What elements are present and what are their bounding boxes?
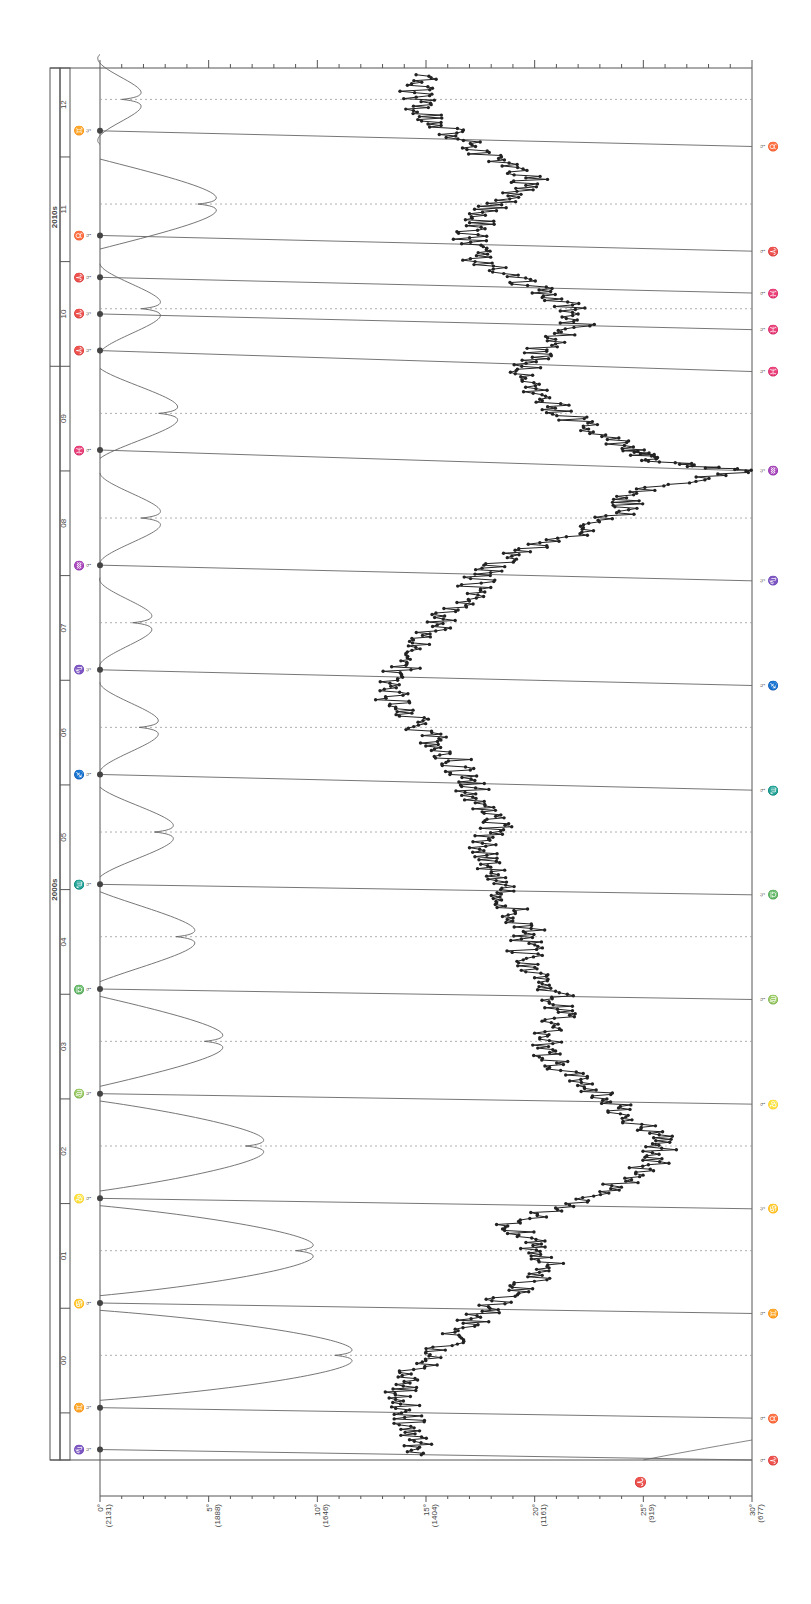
zodiac-sign-icon: ♐ xyxy=(768,680,779,691)
decade-label: 2010s xyxy=(50,205,59,228)
planet-glyph-icon: ♄ xyxy=(84,1300,94,1307)
zodiac-sign-icon: ♑ xyxy=(74,664,85,675)
planet-glyph-icon: ♄ xyxy=(758,248,768,255)
planet-glyph-icon: ♄ xyxy=(84,274,94,281)
year-label: 02 xyxy=(59,1146,68,1155)
planet-glyph-icon: ♄ xyxy=(758,1101,768,1108)
price-tick-label: (677) xyxy=(756,1504,765,1523)
zodiac-sign-icon: ♈ xyxy=(768,246,779,257)
planet-glyph-icon: ♄ xyxy=(84,771,94,778)
zodiac-sign-icon: ♉ xyxy=(74,230,85,241)
zodiac-sign-icon: ♓ xyxy=(768,324,779,335)
planet-glyph-icon: ♄ xyxy=(758,682,768,689)
zodiac-sign-icon: ♋ xyxy=(768,1203,779,1214)
planet-glyph-icon: ♄ xyxy=(84,881,94,888)
planet-glyph-icon: ♄ xyxy=(84,1446,94,1453)
price-tick-label: (1404) xyxy=(430,1504,439,1527)
astro-price-chart: 2000s2010s 00010203040506070809101112 0°… xyxy=(0,0,811,1604)
planet-markers-left: ♄♑♄♊♄♋♄♌♄♍♄♎♄♏♄♐♄♑♄♒♄♓♄♈♄♈♄♈♄♉♄♊ xyxy=(74,125,103,1455)
zodiac-sign-icon: ♏ xyxy=(74,879,85,890)
aries-icon: ♈ xyxy=(634,1476,647,1488)
zodiac-sign-icon: ♋ xyxy=(74,1298,85,1309)
planet-glyph-icon: ♄ xyxy=(84,1090,94,1097)
year-label: 01 xyxy=(59,1251,68,1260)
zodiac-sign-icon: ♓ xyxy=(768,366,779,377)
planet-glyph-icon: ♄ xyxy=(84,447,94,454)
price-tick-label: (1161) xyxy=(539,1504,548,1527)
zodiac-sign-icon: ♌ xyxy=(768,1099,779,1110)
planet-glyph-icon: ♄ xyxy=(758,290,768,297)
planet-glyph-icon: ♄ xyxy=(84,232,94,239)
zodiac-sign-icon: ♌ xyxy=(74,1193,85,1204)
planet-glyph-icon: ♄ xyxy=(758,368,768,375)
zodiac-sign-icon: ♒ xyxy=(768,465,779,476)
zodiac-sign-icon: ♈ xyxy=(74,345,85,356)
year-label: 07 xyxy=(59,623,68,632)
planet-glyph-icon: ♄ xyxy=(758,1415,768,1422)
year-label: 05 xyxy=(59,832,68,841)
year-label: 09 xyxy=(59,414,68,423)
year-label: 00 xyxy=(59,1356,68,1365)
year-label: 06 xyxy=(59,728,68,737)
year-label: 04 xyxy=(59,937,68,946)
planet-glyph-icon: ♄ xyxy=(84,562,94,569)
top-ruler xyxy=(100,60,752,68)
zodiac-sign-icon: ♍ xyxy=(74,1088,85,1099)
zodiac-sign-icon: ♒ xyxy=(74,560,85,571)
year-label: 11 xyxy=(59,205,68,214)
price-tick-label: (1646) xyxy=(321,1504,330,1527)
zodiac-sign-icon: ♓ xyxy=(768,288,779,299)
zodiac-sign-icon: ♈ xyxy=(768,1455,779,1466)
planet-glyph-icon: ♄ xyxy=(758,996,768,1003)
planet-glyph-icon: ♄ xyxy=(758,1457,768,1464)
planet-glyph-icon: ♄ xyxy=(84,666,94,673)
planet-glyph-icon: ♄ xyxy=(758,143,768,150)
planet-glyph-icon: ♄ xyxy=(758,468,768,475)
price-tick-label: (919) xyxy=(647,1504,656,1523)
planet-glyph-icon: ♄ xyxy=(758,891,768,898)
planet-glyph-icon: ♄ xyxy=(758,326,768,333)
zodiac-sign-icon: ♊ xyxy=(74,1402,85,1413)
planet-glyph-icon: ♄ xyxy=(84,311,94,318)
zodiac-sign-icon: ♓ xyxy=(74,445,85,456)
planet-glyph-icon: ♄ xyxy=(84,1404,94,1411)
planet-cycle-curves: ♈ xyxy=(98,54,752,1488)
zodiac-sign-icon: ♑ xyxy=(74,1444,85,1455)
planet-markers-right: ♄♈♄♉♄♊♄♋♄♌♄♍♄♎♄♏♄♐♄♑♄♒♄♓♄♓♄♓♄♈♄♉ xyxy=(758,141,779,1466)
planet-glyph-icon: ♄ xyxy=(84,1195,94,1202)
zodiac-sign-icon: ♊ xyxy=(768,1308,779,1319)
year-label: 03 xyxy=(59,1042,68,1051)
price-tick-label: (2131) xyxy=(104,1504,113,1527)
zodiac-sign-icon: ♈ xyxy=(74,308,85,319)
mid-year-guides xyxy=(100,99,752,1355)
planet-glyph-icon: ♄ xyxy=(84,347,94,354)
year-band: 00010203040506070809101112 xyxy=(59,100,70,1413)
zodiac-sign-icon: ♑ xyxy=(768,575,779,586)
planet-glyph-icon: ♄ xyxy=(758,1205,768,1212)
zodiac-sign-icon: ♈ xyxy=(74,272,85,283)
zodiac-sign-icon: ♏ xyxy=(768,785,779,796)
planet-glyph-icon: ♄ xyxy=(84,127,94,134)
zodiac-sign-icon: ♉ xyxy=(768,141,779,152)
zodiac-sign-icon: ♎ xyxy=(74,984,85,995)
zodiac-sign-icon: ♉ xyxy=(768,1413,779,1424)
year-label: 12 xyxy=(59,100,68,109)
zodiac-sign-icon: ♎ xyxy=(768,889,779,900)
price-series xyxy=(374,73,753,1456)
year-label: 08 xyxy=(59,518,68,527)
zodiac-sign-icon: ♍ xyxy=(768,994,779,1005)
planet-glyph-icon: ♄ xyxy=(758,577,768,584)
zodiac-sign-icon: ♐ xyxy=(74,769,85,780)
planet-glyph-icon: ♄ xyxy=(84,986,94,993)
zodiac-sign-icon: ♊ xyxy=(74,125,85,136)
decade-label: 2000s xyxy=(50,878,59,901)
planet-glyph-icon: ♄ xyxy=(758,1310,768,1317)
degree-axis: 0°(2131)5°(1888)10°(1646)15°(1404)20°(11… xyxy=(96,1496,765,1527)
price-tick-label: (1888) xyxy=(213,1504,222,1527)
year-label: 10 xyxy=(59,309,68,318)
planet-glyph-icon: ♄ xyxy=(758,787,768,794)
